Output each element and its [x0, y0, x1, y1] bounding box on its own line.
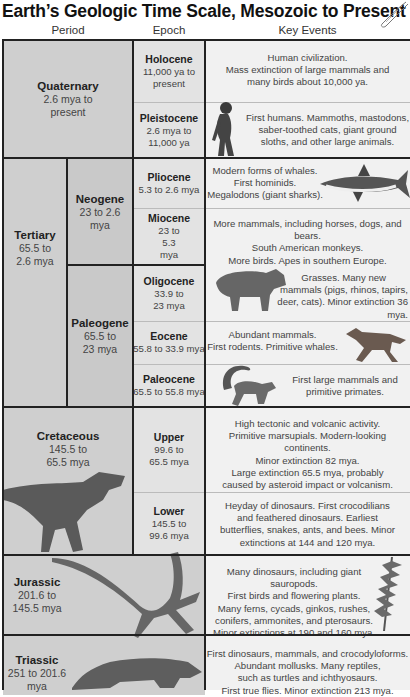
megalodon-shark-illustration	[318, 162, 410, 204]
period-name: Paleogene	[71, 316, 129, 330]
epoch-name: Eocene	[150, 330, 187, 343]
epoch-dates: 2.6 mya to 11,000 ya	[144, 125, 194, 149]
event-line: Many ferns, cycads, ginkos, rushes,	[205, 603, 383, 615]
epoch-dates: 11,000 ya to present	[141, 66, 197, 90]
event-line: Mass extinction of large mammals and	[205, 64, 410, 76]
epoch-name: Pliocene	[147, 171, 190, 184]
period-name: Neogene	[76, 192, 125, 206]
column-header-epoch: Epoch	[133, 22, 205, 39]
epoch-pliocene: Pliocene 5.3 to 2.6 mya	[133, 158, 205, 208]
row-divider	[133, 102, 410, 103]
events-triassic: First dinosaurs, mammals, and crocodylof…	[205, 648, 410, 697]
event-line: First dinosaurs, mammals, and crocodylof…	[205, 648, 410, 660]
period-dates: 251 to 201.6 mya	[7, 667, 67, 693]
epoch-name: Upper	[154, 431, 184, 444]
epoch-dates: 55.8 to 33.9 mya	[133, 343, 204, 355]
epoch-upper-cretaceous: Upper 99.6 to 65.5 mya	[133, 407, 205, 492]
event-line: First birds and flowering plants.	[205, 590, 383, 602]
epoch-holocene: Holocene 11,000 ya to present	[133, 40, 205, 102]
fern-plant-illustration	[370, 555, 406, 633]
period-quaternary: Quaternary 2.6 mya to present	[3, 40, 133, 158]
event-line: Human civilization.	[205, 52, 410, 64]
event-line: Minor extinction 82 mya.	[205, 455, 410, 467]
period-dates: 145.5 to 65.5 mya	[38, 443, 98, 469]
epoch-pleistocene: Pleistocene 2.6 mya to 11,000 ya	[133, 102, 205, 158]
event-line: Many dinosaurs, including giant sauropod…	[205, 566, 383, 590]
subperiod-paleogene: Paleogene 65.5 to 23 mya	[67, 265, 133, 407]
events-holocene: Human civilization. Mass extinction of l…	[205, 52, 410, 89]
epoch-oligocene: Oligocene 33.9 to 23 mya	[133, 265, 205, 321]
epoch-lower-cretaceous: Lower 145.5 to 99.6 mya	[133, 492, 205, 555]
event-line: High tectonic and volcanic activity.	[205, 418, 410, 430]
event-line: First hominids.	[205, 177, 325, 189]
row-border-neogene-paleogene	[67, 264, 205, 266]
events-paleocene: First large mammals and primitive primat…	[285, 374, 405, 398]
epoch-name: Holocene	[145, 53, 192, 66]
events-jurassic: Many dinosaurs, including giant sauropod…	[205, 566, 383, 639]
events-eocene: Abundant mammals. First rodents. Primiti…	[205, 329, 340, 353]
row-border-quaternary-tertiary	[3, 157, 410, 159]
event-line: caused by asteroid impact or volcanism.	[205, 479, 410, 491]
period-tertiary: Tertiary 65.5 to 2.6 mya	[3, 158, 67, 407]
epoch-eocene: Eocene 55.8 to 33.9 mya	[133, 321, 205, 364]
event-line: such as turtles and ichthyosaurs.	[205, 672, 410, 684]
row-border-jurassic-triassic	[3, 634, 410, 636]
period-name: Quaternary	[37, 79, 98, 93]
table-left-border	[2, 39, 4, 690]
col-border-tertiary	[66, 157, 68, 407]
epoch-name: Lower	[154, 505, 185, 518]
subperiod-neogene: Neogene 23 to 2.6 mya	[67, 158, 133, 265]
row-divider	[133, 492, 410, 493]
epoch-paleocene: Paleocene 65.5 to 55.8 mya	[133, 364, 205, 407]
column-header-key-events: Key Events	[205, 22, 410, 39]
period-name: Tertiary	[14, 228, 55, 242]
plesiosaur-illustration	[50, 548, 205, 640]
epoch-name: Oligocene	[144, 275, 195, 288]
period-dates: 65.5 to 2.6 mya	[15, 242, 55, 268]
epoch-dates: 99.6 to 65.5 mya	[149, 444, 189, 468]
page-title: Earth’s Geologic Time Scale, Mesozoic to…	[2, 0, 372, 22]
epoch-dates: 145.5 to 99.6 mya	[149, 518, 189, 542]
events-miocene: More mammals, including horses, dogs, an…	[205, 218, 410, 267]
table-top-border	[3, 39, 410, 41]
event-line: many birds about 10,000 ya.	[205, 76, 410, 88]
events-pliocene: Modern forms of whales. First hominids. …	[205, 165, 325, 202]
event-line: Abundant mammals.	[205, 329, 340, 341]
event-line: First large mammals and	[285, 374, 405, 386]
events-upper-cretaceous: High tectonic and volcanic activity. Pri…	[205, 418, 410, 491]
period-name: Triassic	[7, 653, 67, 667]
col-border-epoch-events	[204, 39, 206, 690]
col-border-period-epoch	[132, 39, 134, 555]
event-line: extinctions at 144 and 120 mya.	[205, 537, 410, 549]
event-line: butterflies, snakes, ants, and bees. Min…	[205, 524, 410, 536]
event-line: Modern forms of whales.	[205, 165, 325, 177]
event-line: South American monkeys.	[205, 242, 410, 254]
event-line: Abundant mollusks. Many reptiles,	[205, 660, 410, 672]
event-line: Primitive marsupials. Modern-looking con…	[205, 430, 410, 454]
primitive-primate-illustration	[218, 360, 278, 408]
event-line: conifers, ammonites, and pterosaurs.	[205, 615, 383, 627]
epoch-name: Miocene	[148, 212, 190, 225]
event-line: First true flies. Minor extinction 213 m…	[205, 685, 410, 697]
row-divider	[133, 208, 410, 209]
event-line: First humans. Mammoths, mastodons,	[245, 112, 410, 124]
period-dates: 65.5 to 23 mya	[80, 330, 120, 356]
epoch-name: Pleistocene	[140, 112, 198, 125]
event-line: Large extinction 65.5 mya, probably	[205, 467, 410, 479]
epoch-dates: 65.5 to 55.8 mya	[133, 386, 204, 398]
events-lower-cretaceous: Heyday of dinosaurs. First crocodilians …	[205, 500, 410, 549]
epoch-dates: 23 to 5.3 mya	[154, 225, 184, 261]
event-line: Heyday of dinosaurs. First crocodilians	[205, 500, 410, 512]
period-dates: 2.6 mya to present	[33, 93, 103, 119]
period-dates: 23 to 2.6 mya	[78, 206, 122, 232]
event-line: and feathered dinosaurs. Earliest	[205, 512, 410, 524]
epoch-name: Paleocene	[143, 373, 195, 386]
row-border-cretaceous-jurassic	[3, 554, 410, 556]
event-line: First rodents. Primitive whales.	[205, 341, 340, 353]
column-header-period: Period	[3, 22, 133, 39]
cynodont-reptile-illustration	[70, 652, 205, 690]
event-line: primitive primates.	[285, 386, 405, 398]
event-line: More mammals, including horses, dogs, an…	[205, 218, 410, 242]
event-line: saber-toothed cats, giant ground	[245, 124, 410, 136]
period-name: Cretaceous	[37, 429, 100, 443]
